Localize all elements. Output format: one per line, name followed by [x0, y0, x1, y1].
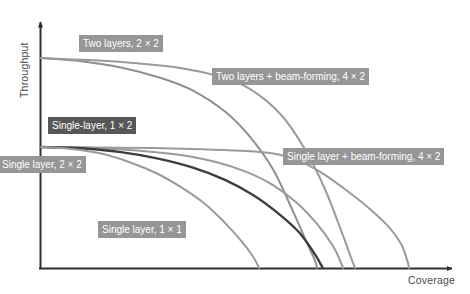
y-axis-title: Throughput — [18, 42, 30, 98]
series-label-single-layer-2x2: Single layer, 2 × 2 — [0, 156, 86, 173]
curve-single-layer-1-2 — [41, 147, 343, 268]
x-axis-title: Coverage — [408, 274, 455, 286]
series-label-single-layer-beamforming-4x2: Single layer + beam-forming, 4 × 2 — [283, 148, 444, 165]
series-label-two-layers-2x2: Two layers, 2 × 2 — [79, 35, 163, 52]
series-label-two-layers-beamforming-4x2: Two layers + beam-forming, 4 × 2 — [212, 68, 369, 85]
throughput-coverage-chart: Throughput Coverage Two layers, 2 × 2 Tw… — [0, 0, 470, 294]
series-label-single-layer-1x2: Single-layer, 1 × 2 — [48, 117, 136, 134]
series-label-single-layer-1x1: Single layer, 1 × 1 — [98, 221, 186, 238]
plot-area — [0, 0, 470, 294]
